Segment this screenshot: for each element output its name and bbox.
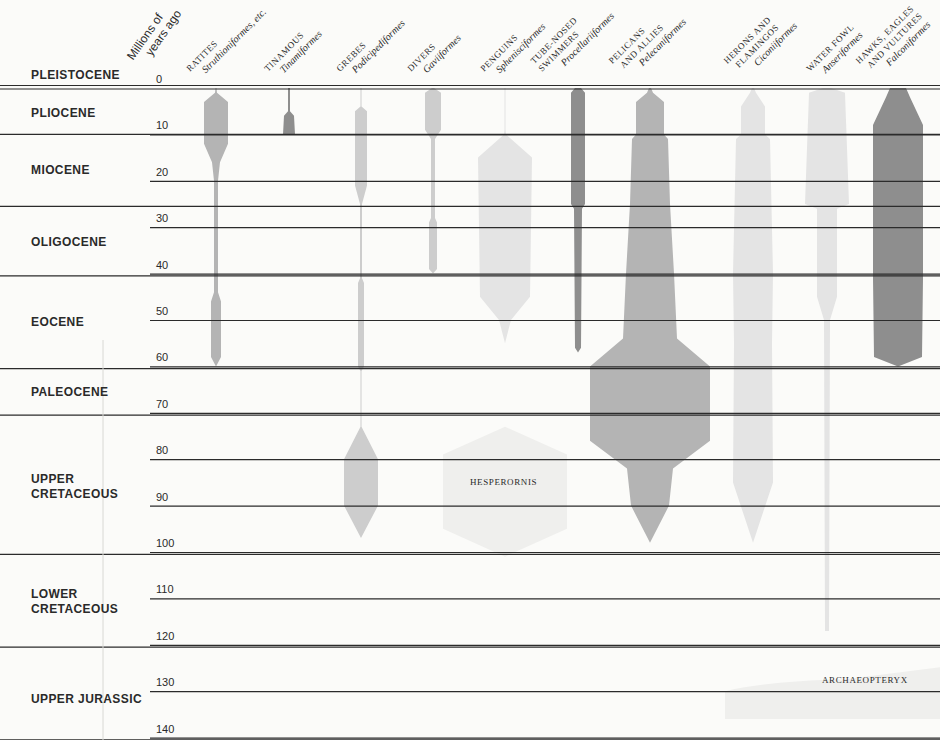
tick-label: 110 (156, 583, 174, 595)
gridlines (0, 86, 940, 740)
epoch-label: UPPER JURASSIC (31, 692, 142, 707)
lineage-pelicans (590, 88, 710, 543)
lineage-tubenosed (571, 88, 585, 352)
epoch-label: PLIOCENE (31, 106, 96, 121)
lineage-herons (733, 88, 773, 543)
bird-evolution-chart (0, 0, 940, 740)
epoch-label: PLEISTOCENE (31, 68, 120, 83)
tick-label: 130 (156, 676, 174, 688)
tick-label: 90 (156, 491, 168, 503)
tick-label: 0 (156, 73, 162, 85)
tick-label: 140 (156, 723, 174, 735)
fossil-label-hesperornis: HESPERORNIS (470, 477, 537, 487)
lineage-penguins (478, 88, 532, 343)
tick-label: 120 (156, 630, 174, 642)
lineage-tinamous (283, 88, 295, 134)
fossil-label-archaeopteryx: ARCHAEOPTERYX (822, 675, 908, 685)
tick-label: 60 (156, 351, 168, 363)
tick-label: 40 (156, 259, 168, 271)
tick-label: 50 (156, 305, 168, 317)
tick-label: 10 (156, 119, 168, 131)
epoch-label: MIOCENE (31, 163, 90, 178)
epoch-label: LOWER CRETACEOUS (31, 587, 118, 617)
epoch-label: UPPER CRETACEOUS (31, 472, 118, 502)
tick-label: 80 (156, 444, 168, 456)
lineage-grebes (344, 88, 378, 538)
epoch-label: OLIGOCENE (31, 235, 107, 250)
tick-label: 70 (156, 398, 168, 410)
epoch-label: PALEOCENE (31, 385, 108, 400)
tick-label: 30 (156, 212, 168, 224)
lineage-water (805, 88, 849, 631)
tick-label: 100 (156, 537, 174, 549)
tick-label: 20 (156, 166, 168, 178)
lineage-spindles (204, 88, 940, 719)
epoch-label: EOCENE (31, 315, 84, 330)
lineage-hesperornis (443, 427, 567, 557)
